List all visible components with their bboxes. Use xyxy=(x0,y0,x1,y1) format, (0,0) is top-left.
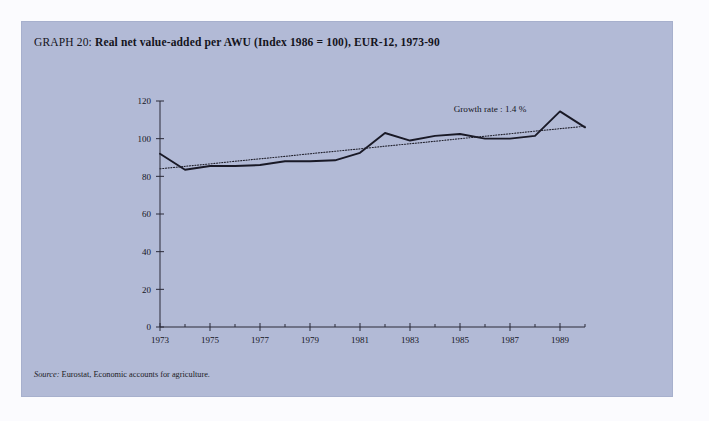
x-tick-label-1989: 1989 xyxy=(551,335,570,345)
source-label: Source: xyxy=(34,370,60,379)
x-tick-label-1981: 1981 xyxy=(351,335,369,345)
y-tick-label-60: 60 xyxy=(142,209,152,219)
x-tick-label-1973: 1973 xyxy=(151,335,170,345)
y-tick-label-120: 120 xyxy=(138,96,152,106)
data-series-group xyxy=(160,111,585,169)
x-tick-label-1977: 1977 xyxy=(251,335,270,345)
x-tick-label-1985: 1985 xyxy=(451,335,470,345)
y-tick-label-40: 40 xyxy=(142,247,152,257)
figure-panel: GRAPH 20: Real net value-added per AWU (… xyxy=(22,22,672,396)
y-tick-label-100: 100 xyxy=(138,134,152,144)
y-tick-label-20: 20 xyxy=(142,285,152,295)
x-tick-label-1987: 1987 xyxy=(501,335,520,345)
x-tick-label-1975: 1975 xyxy=(201,335,220,345)
chart-plot-area: 020406080100120 197319751977197919811983… xyxy=(22,22,672,396)
line-chart: 020406080100120 197319751977197919811983… xyxy=(22,22,672,396)
x-tick-label-1979: 1979 xyxy=(301,335,320,345)
y-tick-label-0: 0 xyxy=(147,322,152,332)
x-axis: 197319751977197919811983198519871989 xyxy=(151,323,585,345)
x-tick-label-1983: 1983 xyxy=(401,335,420,345)
y-tick-label-80: 80 xyxy=(142,172,152,182)
source-note: Source: Eurostat, Economic accounts for … xyxy=(34,370,210,379)
y-axis: 020406080100120 xyxy=(138,96,165,332)
annotation-group: Growth rate : 1.4 % xyxy=(454,104,527,114)
data-line-series xyxy=(160,111,585,169)
source-text: Eurostat, Economic accounts for agricult… xyxy=(62,370,210,379)
trend-line-series xyxy=(160,126,585,169)
page-root: GRAPH 20: Real net value-added per AWU (… xyxy=(0,0,709,421)
growth-rate-annotation: Growth rate : 1.4 % xyxy=(454,104,527,114)
